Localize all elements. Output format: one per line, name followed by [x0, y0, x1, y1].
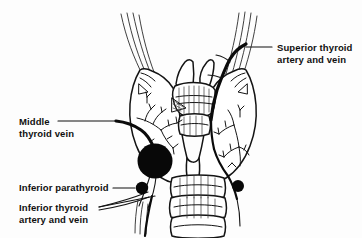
cricoid-cartilage: [179, 114, 211, 137]
label-inferior-parathyroid: Inferior parathyroid: [19, 182, 109, 193]
parathyroid-gland-small-left: [136, 182, 148, 194]
label-inferior-parathyroid-line1: Inferior parathyroid: [19, 182, 109, 193]
parathyroid-gland-large: [138, 144, 173, 179]
label-inferior-thyroid: Inferior thyroid artery and vein: [19, 202, 88, 225]
trachea: [170, 175, 227, 238]
label-superior-thyroid: Superior thyroid artery and vein: [277, 42, 353, 65]
label-inferior-thyroid-line2: artery and vein: [19, 214, 88, 225]
label-superior-thyroid-line1: Superior thyroid: [277, 42, 353, 53]
label-inferior-thyroid-line1: Inferior thyroid: [19, 202, 88, 213]
parathyroid-gland-small-right: [232, 180, 244, 192]
label-superior-thyroid-line2: artery and vein: [277, 54, 346, 65]
anatomy-diagram-thyroid: Superior thyroid artery and vein Middle …: [0, 0, 362, 238]
diagram-canvas: Superior thyroid artery and vein Middle …: [0, 0, 362, 238]
label-middle-thyroid-vein-line2: thyroid vein: [19, 128, 74, 139]
label-middle-thyroid-vein-line1: Middle: [19, 116, 50, 127]
